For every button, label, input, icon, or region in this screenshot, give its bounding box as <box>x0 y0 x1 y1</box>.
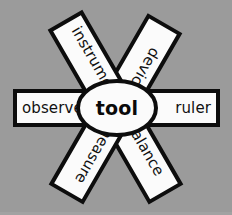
spoke-right-label: ruler <box>175 99 211 117</box>
center-node-label: tool <box>96 97 139 119</box>
center-node: tool <box>78 81 156 135</box>
word-web-canvas: device instrument balance measure observ… <box>0 0 232 215</box>
spoke-left-label: observe <box>22 99 83 117</box>
bottom-edge-strip <box>0 212 232 215</box>
word-web-diagram: device instrument balance measure observ… <box>0 0 232 215</box>
